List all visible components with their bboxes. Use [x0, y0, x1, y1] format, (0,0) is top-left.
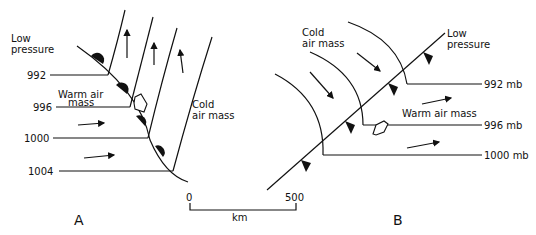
isobar-label-1000: 1000 [24, 133, 49, 144]
panel-b-letter: B [393, 212, 403, 228]
panel-a: Low pressure 992 996 1000 1004 Warm air … [11, 10, 235, 228]
svg-text:0: 0 [186, 192, 192, 203]
isobar-label-996mb: 996 mb [484, 120, 522, 131]
cold-air-mass-label-b: Cold [302, 27, 324, 38]
svg-text:air mass: air mass [302, 38, 345, 49]
warm-front-symbols [91, 53, 165, 157]
panel-a-letter: A [74, 212, 84, 228]
low-pressure-label-b: Low [447, 28, 467, 39]
svg-text:500: 500 [285, 192, 304, 203]
cold-air-mass-label-a: Cold [192, 99, 214, 110]
svg-text:pressure: pressure [11, 44, 54, 55]
svg-text:Low: Low [11, 33, 31, 44]
isobar-label-1004: 1004 [28, 166, 53, 177]
front-motion-arrow-a [134, 94, 147, 112]
panel-b: Cold air mass Low pressure Warm air mass… [267, 22, 529, 228]
low-pressure-label-a: Low [11, 33, 31, 44]
svg-text:air mass: air mass [192, 110, 235, 121]
isobar-label-1000mb: 1000 mb [484, 150, 529, 161]
scale-bar: 0 500 km [186, 192, 304, 223]
isobar-label-996: 996 [33, 102, 52, 113]
warm-air-mass-label-b: Warm air mass [402, 108, 477, 119]
front-motion-arrow-b [373, 121, 388, 135]
front-diagram: Low pressure 992 996 1000 1004 Warm air … [0, 0, 536, 235]
svg-text:mass: mass [68, 97, 94, 108]
isobar-label-992: 992 [27, 70, 46, 81]
isobar-label-992mb: 992 mb [484, 79, 522, 90]
warm-front-line [77, 46, 188, 182]
svg-text:pressure: pressure [447, 39, 490, 50]
svg-text:km: km [232, 212, 248, 223]
